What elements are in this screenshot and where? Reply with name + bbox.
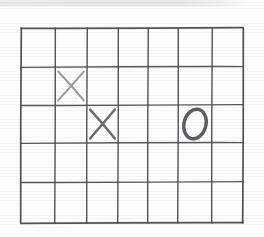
- gridline-h-0: [21, 28, 243, 29]
- gridline-h-2: [21, 105, 243, 106]
- gridline-v-5: [178, 28, 179, 223]
- gridline-h-1: [21, 67, 243, 68]
- mark-o-ellipse: [181, 107, 210, 141]
- board-canvas: [0, 0, 264, 237]
- gridline-v-0: [21, 28, 22, 223]
- mark-x-r2c2[interactable]: [58, 72, 84, 101]
- gridline-v-1: [55, 28, 56, 223]
- gridline-v-7: [243, 28, 244, 223]
- grid-board: [0, 0, 264, 237]
- gridline-h-3: [21, 143, 243, 144]
- mark-x-r3c3[interactable]: [90, 110, 115, 139]
- mark-o-r3c6[interactable]: [181, 107, 210, 141]
- vertical-gridlines: [21, 28, 244, 223]
- gridline-v-6: [212, 28, 213, 223]
- gridline-v-2: [87, 28, 88, 223]
- gridline-v-4: [148, 28, 149, 223]
- gridline-v-3: [118, 28, 119, 223]
